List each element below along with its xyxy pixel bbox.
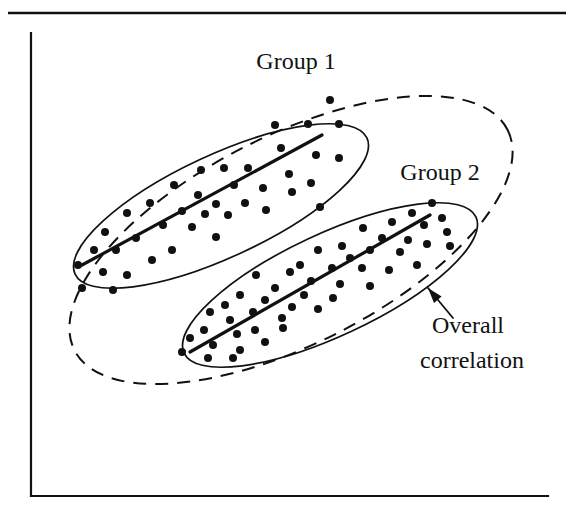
data-point [168,246,176,254]
data-point [312,151,320,159]
data-point [404,236,412,244]
data-point [224,211,232,219]
data-point [201,210,209,218]
data-point [261,296,269,304]
data-point [329,294,337,302]
data-point [186,334,194,342]
overall-correlation-label-line2: correlation [420,347,524,373]
group1-label: Group 1 [256,48,335,74]
data-point [316,203,324,211]
data-point [212,200,220,208]
data-point [359,224,367,232]
data-point [226,316,234,324]
data-point [170,181,178,189]
data-point [385,266,393,274]
data-point [261,338,269,346]
data-point [244,164,252,172]
data-point [123,209,131,217]
data-point [423,240,431,248]
data-point [252,271,260,279]
data-point [236,291,244,299]
data-point [408,209,416,217]
data-point [307,179,315,187]
group2-label: Group 2 [400,159,479,185]
data-point [420,221,428,229]
figure-background [0,0,571,517]
data-point [338,242,346,250]
data-point [236,346,244,354]
data-point [90,246,98,254]
data-point [326,96,334,104]
data-point [314,305,322,313]
data-point [446,242,454,250]
data-point [428,199,436,207]
data-point [286,268,294,276]
data-point [262,206,270,214]
figure-container: Group 1 Group 2 Overall correlation [0,0,571,517]
data-point [78,284,86,292]
data-point [335,154,343,162]
data-point [206,308,214,316]
scatterplot-figure: Group 1 Group 2 Overall correlation [0,0,571,517]
data-point [335,120,343,128]
data-point [413,261,421,269]
overall-correlation-label-line1: Overall [432,312,504,338]
data-point [438,214,446,222]
data-point [396,248,404,256]
data-point [443,228,451,236]
data-point [197,166,205,174]
data-point [314,246,322,254]
data-point [277,144,285,152]
data-point [304,120,312,128]
data-point [336,280,344,288]
data-point [101,228,109,236]
data-point [288,188,296,196]
data-point [146,199,154,207]
data-point [220,164,228,172]
data-point [194,191,202,199]
data-point [366,282,374,290]
data-point [300,291,308,299]
data-point [271,284,279,292]
data-point [212,233,220,241]
data-point [259,184,267,192]
data-point [278,314,286,322]
data-point [109,286,117,294]
data-point [233,330,241,338]
data-point [279,324,287,332]
data-point [388,218,396,226]
data-point [285,170,293,178]
data-point [99,268,107,276]
data-point [188,223,196,231]
data-point [229,354,237,362]
data-point [221,301,229,309]
data-point [123,271,131,279]
data-point [358,264,366,272]
data-point [204,354,212,362]
data-point [148,256,156,264]
data-point [288,303,296,311]
data-point [241,199,249,207]
data-point [271,121,279,129]
data-point [296,261,304,269]
data-point [200,326,208,334]
data-point [251,326,259,334]
data-point [178,348,186,356]
